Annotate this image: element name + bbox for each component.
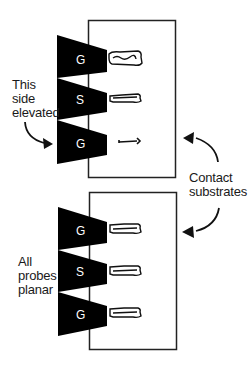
top-probe-g1-label: G (76, 53, 85, 67)
top-contact-mark-2 (110, 94, 141, 102)
bottom-probe-g2-label: G (76, 308, 85, 322)
annotation-line: side (12, 92, 60, 106)
elevated-arrow-icon (25, 122, 53, 149)
bottom-probe-s-label: S (76, 265, 84, 279)
annotation-line: Contact (189, 171, 247, 185)
bottom-probe-g1-label: G (76, 224, 85, 238)
contact-arrow-top-icon (183, 132, 218, 162)
elevated-annotation: This side elevated (12, 78, 60, 120)
planar-annotation: All probes planar (18, 255, 57, 297)
bottom-contact-mark-3 (110, 308, 141, 317)
top-contact-mark-3-faint (119, 138, 140, 144)
annotation-line: All (18, 255, 57, 269)
annotation-line: probes (18, 269, 57, 283)
contact-substrates-annotation: Contact substrates (189, 171, 247, 199)
annotation-line: substrates (189, 185, 247, 199)
top-contact-mark-1 (109, 51, 142, 65)
annotation-line: planar (18, 283, 57, 297)
top-probe-s-label: S (76, 93, 84, 107)
top-probe-g2-label: G (76, 137, 85, 151)
annotation-line: This (12, 78, 60, 92)
bottom-panel: G S G (58, 193, 219, 350)
contact-arrow-bottom-icon (182, 208, 219, 238)
bottom-contact-mark-1 (110, 224, 141, 233)
annotation-line: elevated (12, 106, 60, 120)
bottom-contact-mark-2 (110, 266, 141, 275)
